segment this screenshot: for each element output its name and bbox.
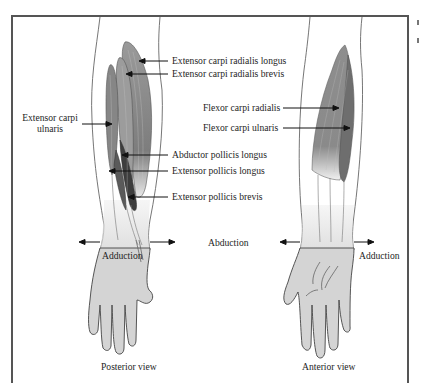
label-flexor-carpi-ulnaris: Flexor carpi ulnaris	[203, 122, 278, 133]
anterior-hand	[284, 248, 354, 358]
anterior-arm	[284, 17, 363, 358]
label-posterior-adduction: Adduction	[102, 250, 143, 261]
label-anterior-view: Anterior view	[302, 361, 356, 372]
label-extensor-carpi-ulnaris: Extensor carpi ulnaris	[14, 112, 86, 134]
label-abductor-pollicis-longus: Abductor pollicis longus	[172, 149, 267, 160]
label-extensor-carpi-ulnaris-line1: Extensor carpi	[14, 112, 86, 123]
label-extensor-pollicis-brevis: Extensor pollicis brevis	[172, 191, 263, 202]
clipped-edge-mark	[417, 38, 419, 43]
label-extensor-carpi-radialis-brevis: Extensor carpi radialis brevis	[172, 68, 284, 79]
label-abduction: Abduction	[208, 237, 249, 248]
label-anterior-adduction: Adduction	[359, 250, 400, 261]
posterior-arm	[89, 17, 163, 354]
label-extensor-pollicis-longus: Extensor pollicis longus	[172, 165, 265, 176]
label-posterior-view: Posterior view	[101, 361, 157, 372]
clipped-edge-mark	[417, 20, 419, 25]
posterior-hand	[89, 248, 153, 354]
label-extensor-carpi-ulnaris-line2: ulnaris	[14, 123, 86, 134]
label-flexor-carpi-radialis: Flexor carpi radialis	[203, 102, 280, 113]
label-extensor-carpi-radialis-longus: Extensor carpi radialis longus	[172, 55, 286, 66]
